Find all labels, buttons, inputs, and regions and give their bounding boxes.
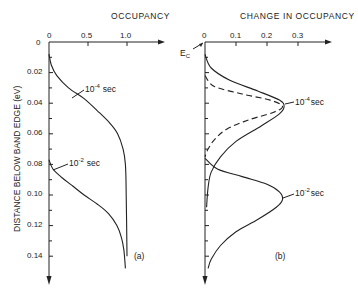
panel-label-a: (a): [134, 251, 145, 261]
curve-b-1e-4-sec-dashed: [205, 76, 283, 157]
a-xtick-1.0: 1.0: [120, 31, 132, 40]
a-xtick-0: 0: [47, 31, 52, 40]
leader-a-1e-2: [53, 164, 68, 170]
ec-label: EC: [180, 48, 191, 59]
annot-a-1e-2: 10-2sec: [69, 157, 101, 168]
annot-b-1e-2: 10-2sec: [295, 187, 325, 198]
b-xtick-0: 0: [202, 31, 207, 40]
curve-b-1e-2-sec: [205, 158, 283, 268]
ytick-0.12: 0.12: [27, 220, 43, 229]
figure: OCCUPANCY CHANGE IN OCCUPANCY DISTANCE B…: [0, 0, 358, 291]
annot-b-1e-4: 10-4sec: [295, 96, 325, 107]
ytick-0.06: 0.06: [27, 128, 43, 137]
ytick-0: 0: [36, 38, 41, 47]
annot-a-1e-4: 10-4sec: [85, 83, 117, 94]
curve-a-1e-2-sec: [49, 160, 125, 269]
ytick-0.04: 0.04: [27, 98, 43, 107]
title-occupancy: OCCUPANCY: [111, 11, 170, 21]
y-axis-label: DISTANCE BELOW BAND EDGE (eV): [12, 86, 22, 232]
a-xtick-0.5: 0.5: [81, 31, 93, 40]
ytick-0.10: 0.10: [27, 189, 43, 198]
ytick-0.02: 0.02: [27, 67, 43, 76]
b-xtick-0.2: 0.2: [261, 31, 273, 40]
ytick-0.14: 0.14: [27, 251, 43, 260]
ytick-0.08: 0.08: [27, 159, 43, 168]
panel-label-b: (b): [275, 251, 286, 261]
b-xtick-0.3: 0.3: [292, 31, 304, 40]
leader-b-1e-2: [283, 194, 294, 198]
leader-b-1e-4: [285, 102, 294, 104]
b-xtick-0.1: 0.1: [230, 31, 242, 40]
panel-a-axes: [47, 40, 166, 286]
title-change-in-occupancy: CHANGE IN OCCUPANCY: [240, 11, 355, 21]
curve-b-1e-4-sec-solid: [205, 54, 284, 207]
